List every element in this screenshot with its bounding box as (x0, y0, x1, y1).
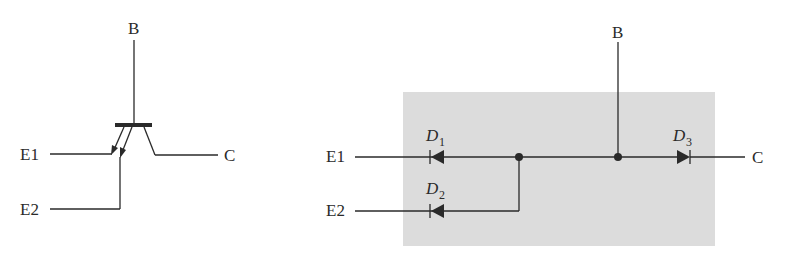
emitter1-label-right: E1 (326, 147, 345, 166)
svg-text:D: D (425, 179, 439, 198)
emitter1-arrow-icon (111, 145, 118, 155)
emitter1-label: E1 (20, 145, 39, 164)
svg-text:D: D (425, 126, 439, 145)
emitter2-label-right: E2 (326, 201, 345, 220)
multi-emitter-transistor-symbol: B (50, 19, 218, 209)
svg-text:3: 3 (686, 135, 692, 149)
base-junction-dot (614, 153, 622, 161)
collector-leg (144, 127, 155, 155)
base-bar (115, 123, 152, 127)
base-label-right: B (612, 23, 623, 42)
emitter2-label: E2 (20, 200, 39, 219)
svg-text:D: D (672, 126, 686, 145)
emitter2-arrow-icon (120, 147, 126, 158)
collector-label: C (224, 146, 235, 165)
svg-text:1: 1 (439, 135, 445, 149)
base-label: B (128, 19, 139, 38)
equivalent-circuit-box (403, 92, 715, 246)
collector-label-right: C (752, 148, 763, 167)
svg-text:2: 2 (439, 188, 445, 202)
circuit-diagram: B E1 E2 C (0, 0, 795, 260)
